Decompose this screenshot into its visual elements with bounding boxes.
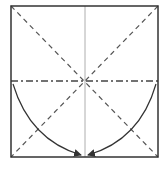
- origami-diagram: [0, 0, 167, 174]
